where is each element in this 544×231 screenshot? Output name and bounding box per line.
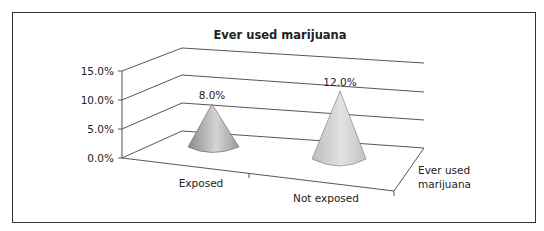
chart-title: Ever used marijuana (213, 28, 346, 42)
cone-chart: Ever used marijuana 15.0% 10.0% 5.0% 0.0… (0, 0, 544, 231)
data-label-exposed: 8.0% (199, 89, 226, 101)
cone-not-exposed (312, 91, 366, 166)
y-axis-labels: 15.0% 10.0% 5.0% 0.0% (81, 65, 114, 164)
category-label-exposed: Exposed (179, 177, 224, 189)
svg-text:0.0%: 0.0% (87, 152, 114, 164)
svg-text:15.0%: 15.0% (81, 65, 114, 77)
depth-axis-label-line2: marijuana (418, 178, 471, 190)
data-label-not-exposed: 12.0% (323, 76, 356, 88)
cone-exposed (188, 104, 239, 153)
category-label-not-exposed: Not exposed (293, 192, 359, 204)
gridlines (118, 48, 424, 196)
svg-text:10.0%: 10.0% (81, 94, 114, 106)
svg-text:5.0%: 5.0% (87, 123, 114, 135)
depth-axis-label-line1: Ever used (418, 164, 470, 176)
